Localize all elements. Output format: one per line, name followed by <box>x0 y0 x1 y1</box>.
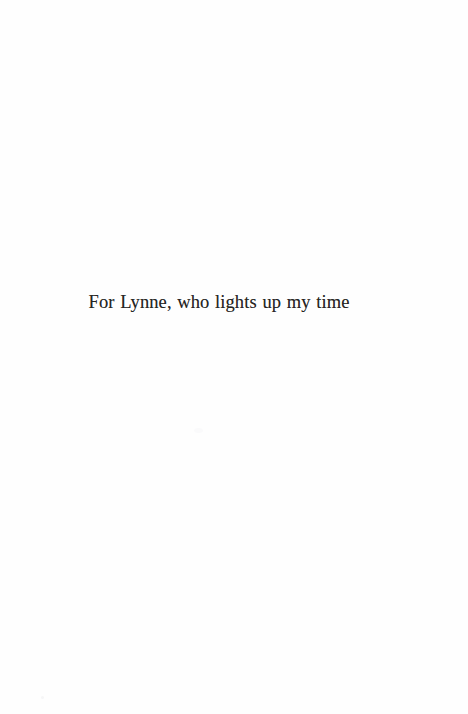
scan-speck-lower-left-artifact <box>41 696 44 699</box>
dedication-text: For Lynne, who lights up my time <box>89 290 350 314</box>
dedication-page: For Lynne, who lights up my time <box>0 0 468 714</box>
dedication-block: For Lynne, who lights up my time <box>0 290 438 314</box>
scan-speck-center-artifact <box>194 428 203 433</box>
